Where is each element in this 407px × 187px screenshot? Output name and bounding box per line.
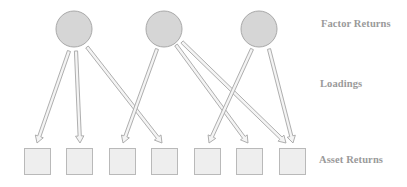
- factor-returns-label: Factor Returns: [321, 18, 391, 29]
- loading-arrow-f1-a2: [74, 51, 83, 143]
- asset-node-6: [237, 149, 263, 175]
- loadings-label: Loadings: [320, 78, 362, 89]
- asset-node-4: [152, 149, 178, 175]
- asset-node-1: [25, 149, 51, 175]
- asset-node-5: [195, 149, 221, 175]
- factor-node-1: [56, 11, 92, 47]
- loading-arrows: [35, 41, 295, 143]
- asset-node-3: [110, 149, 136, 175]
- factor-node-2: [146, 11, 182, 47]
- loading-arrow-f1-a1: [35, 50, 70, 143]
- asset-node-7: [280, 149, 306, 175]
- factor-node-3: [241, 11, 277, 47]
- asset-node-2: [67, 149, 93, 175]
- loading-arrow-f1-a4: [86, 46, 162, 143]
- asset-nodes: [25, 149, 306, 175]
- asset-returns-label: Asset Returns: [319, 154, 383, 165]
- factor-nodes: [56, 11, 277, 47]
